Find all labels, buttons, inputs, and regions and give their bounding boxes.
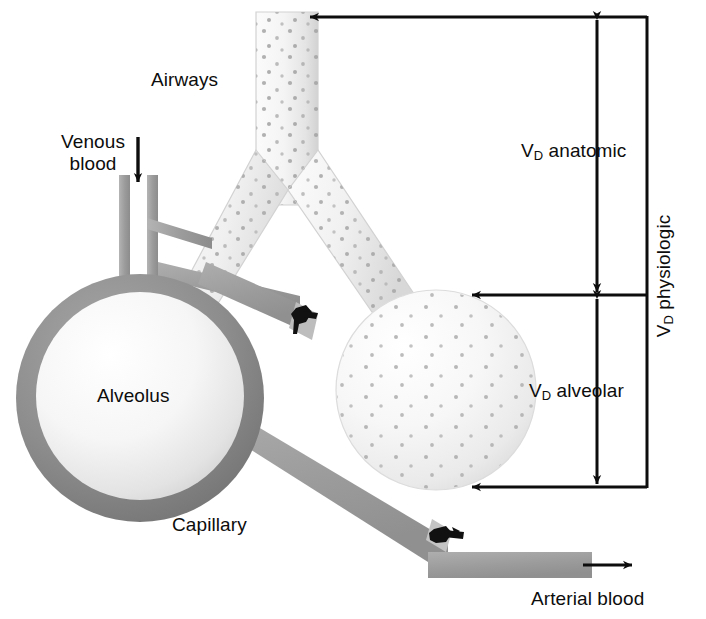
- vd-anatomic-subscript: D: [534, 148, 543, 163]
- label-vd-anatomic: VD anatomic: [521, 140, 626, 162]
- label-venous-blood: Venous blood: [45, 131, 141, 175]
- label-capillary: Capillary: [172, 514, 247, 536]
- label-alveolus: Alveolus: [97, 385, 170, 407]
- label-vd-physiologic: VD physiologic: [664, 153, 686, 276]
- label-vd-alveolar: VD alveolar: [529, 380, 624, 402]
- vd-physiologic-word: physiologic: [653, 215, 674, 315]
- arterial-outflow-shape: [428, 552, 592, 578]
- vd-physiologic-subscript: D: [661, 315, 676, 324]
- label-airways: Airways: [151, 69, 218, 91]
- vd-alveolar-word: alveolar: [551, 380, 624, 401]
- dead-space-diagram: Airways Venous blood Alveolus Capillary …: [0, 0, 706, 619]
- vd-alveolar-v: V: [529, 380, 542, 401]
- vd-alveolar-subscript: D: [542, 388, 551, 403]
- diagram-canvas: [0, 0, 706, 619]
- vd-physiologic-v: V: [653, 325, 674, 338]
- vd-anatomic-word: anatomic: [543, 140, 626, 161]
- alveolus-right: [336, 290, 536, 490]
- vd-anatomic-v: V: [521, 140, 534, 161]
- label-arterial-blood: Arterial blood: [531, 588, 644, 610]
